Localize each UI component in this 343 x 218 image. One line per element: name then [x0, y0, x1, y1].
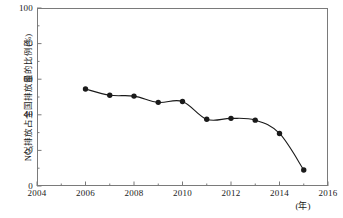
data-point-2011 — [204, 117, 209, 122]
data-point-2008 — [131, 93, 136, 98]
data-point-2009 — [156, 100, 161, 105]
x-axis-tick-label: 2010 — [163, 189, 203, 198]
x-axis-ticks — [37, 182, 328, 187]
chart-canvas — [0, 0, 343, 218]
y-axis-title-subscript: x — [26, 146, 33, 149]
chart-figure: 020406080100 200420062008201020122014201… — [0, 0, 343, 218]
data-point-2007 — [107, 93, 112, 98]
x-axis-tick-label: 2014 — [260, 189, 300, 198]
x-axis-tick-label: 2004 — [17, 189, 57, 198]
x-axis-tick-label: 2006 — [66, 189, 106, 198]
y-axis-title-suffix: 排放占全国排放量的比例(%) — [23, 34, 33, 146]
y-axis-ticks — [37, 8, 42, 186]
data-point-2010 — [180, 99, 185, 104]
x-axis-tick-label: 2008 — [114, 189, 154, 198]
y-axis-title: NOx排放占全国排放量的比例(%) — [23, 23, 34, 173]
data-point-2014 — [277, 131, 282, 136]
data-point-markers — [83, 86, 307, 172]
x-axis-tick-label: 2016 — [308, 189, 343, 198]
y-axis-tick-label: 100 — [5, 4, 33, 13]
y-axis-title-prefix: NO — [23, 149, 33, 161]
x-axis-title: (年) — [273, 201, 333, 211]
data-line-nox-share — [86, 89, 304, 170]
x-axis-tick-label: 2012 — [211, 189, 251, 198]
data-point-2006 — [83, 86, 88, 91]
data-point-2013 — [253, 117, 258, 122]
data-point-2015 — [301, 167, 306, 172]
data-point-2012 — [228, 116, 233, 121]
